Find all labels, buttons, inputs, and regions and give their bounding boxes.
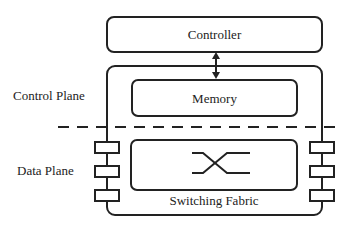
port-left-1 bbox=[95, 142, 119, 153]
port-left-2 bbox=[95, 166, 119, 177]
controller-label: Controller bbox=[107, 27, 322, 43]
right-ports bbox=[310, 142, 334, 201]
data-plane-label: Data Plane bbox=[17, 163, 74, 179]
memory-label: Memory bbox=[132, 91, 297, 107]
port-left-3 bbox=[95, 190, 119, 201]
left-ports bbox=[95, 142, 119, 201]
switching-fabric-label: Switching Fabric bbox=[131, 193, 297, 209]
port-right-1 bbox=[310, 142, 334, 153]
port-right-2 bbox=[310, 166, 334, 177]
port-right-3 bbox=[310, 190, 334, 201]
control-plane-label: Control Plane bbox=[13, 88, 85, 104]
